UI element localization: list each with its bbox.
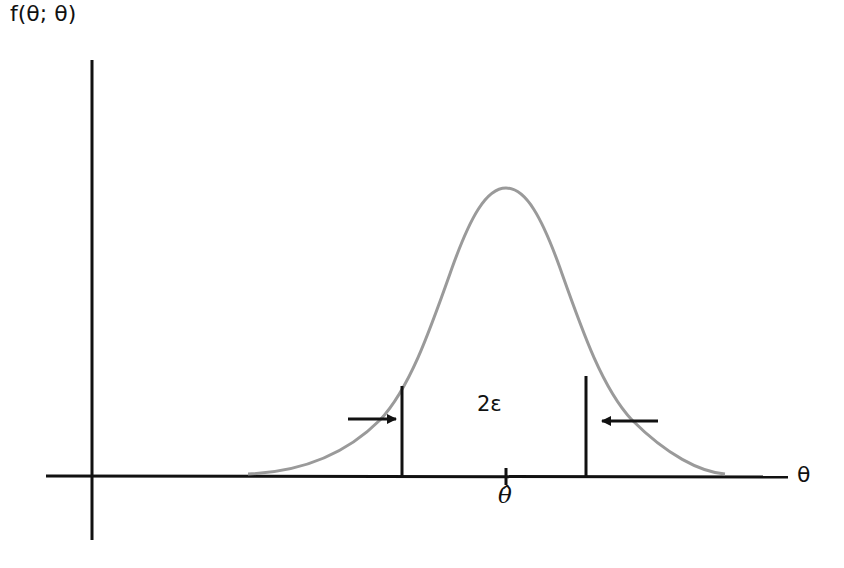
interval-label: 2ε: [477, 392, 502, 416]
x-axis: [46, 476, 788, 477]
theta-hat-label: θ̂: [498, 482, 512, 508]
density-curve: [248, 188, 725, 474]
diagram-canvas: [0, 0, 844, 568]
x-axis-label: θ: [797, 462, 810, 487]
y-axis-label: f(θ; θ): [10, 1, 76, 26]
